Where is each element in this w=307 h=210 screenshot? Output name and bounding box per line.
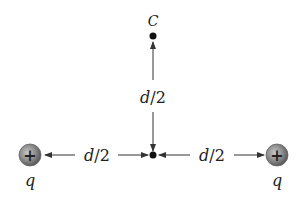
midpoint-dot	[150, 152, 157, 159]
point-c-dot	[150, 33, 157, 40]
right-charge: +	[266, 144, 288, 166]
point-c-label: C	[148, 13, 159, 29]
vertical-distance-label: d/2	[140, 88, 166, 107]
left-charge: +	[19, 144, 41, 166]
charge-diagram: C d/2 d/2 d/2 + q + q	[0, 0, 307, 210]
right-distance-label: d/2	[199, 146, 225, 165]
left-charge-label: q	[25, 171, 35, 190]
right-charge-label: q	[272, 171, 282, 190]
plus-icon: +	[23, 146, 36, 165]
left-distance-label: d/2	[84, 146, 110, 165]
plus-icon: +	[270, 146, 283, 165]
